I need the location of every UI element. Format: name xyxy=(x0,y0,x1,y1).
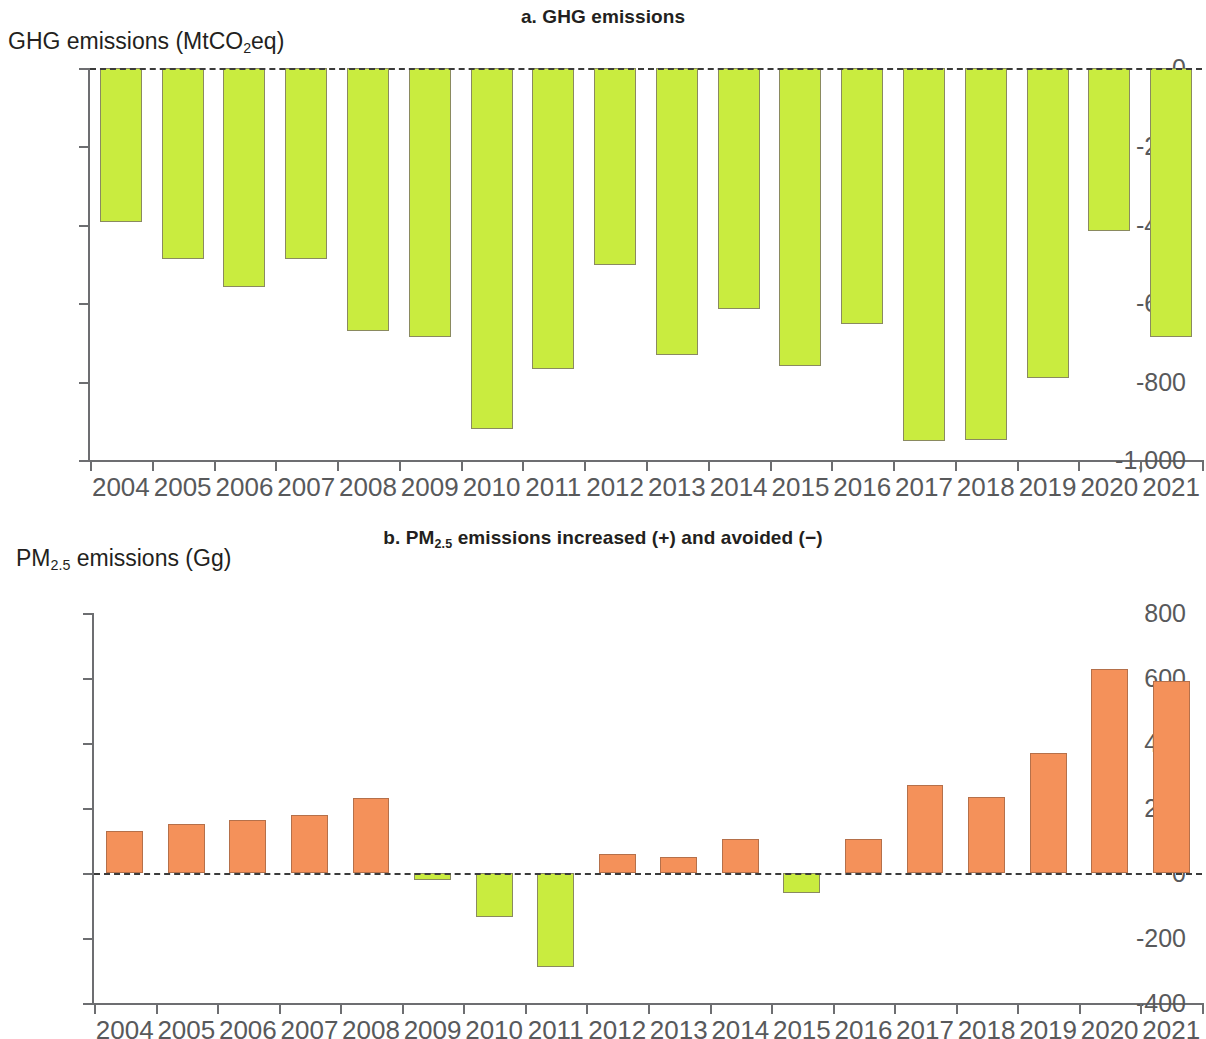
x-axis-tick xyxy=(893,460,895,471)
bar-2020 xyxy=(1091,669,1128,873)
x-axis-tick xyxy=(708,460,710,471)
x-axis-tick-label: 2015 xyxy=(773,1015,831,1039)
y-axis-tick xyxy=(83,613,94,615)
panel-b-y-axis-label-lead: PM xyxy=(16,545,51,571)
x-axis-tick xyxy=(648,1003,650,1014)
panel-b-y-axis-label-tail: emissions (Gg) xyxy=(70,545,231,571)
x-axis-tick-label: 2010 xyxy=(463,472,521,503)
bar-2016 xyxy=(845,839,882,873)
x-axis-tick xyxy=(275,460,277,471)
y-axis-tick xyxy=(79,382,90,384)
x-axis-tick xyxy=(522,460,524,471)
panel-a-title: a. GHG emissions xyxy=(0,6,1206,28)
bar-2006 xyxy=(229,820,266,873)
bar-2011 xyxy=(532,68,574,369)
panel-b-title-subscript: 2.5 xyxy=(435,537,453,551)
x-axis-tick-label: 2004 xyxy=(92,472,150,503)
bar-2007 xyxy=(285,68,327,259)
panel-b-plot-area: 8006004002000-200-4002004200520062007200… xyxy=(92,613,1202,1005)
y-axis-tick xyxy=(79,303,90,305)
bar-2012 xyxy=(594,68,636,265)
y-axis-tick xyxy=(79,460,90,462)
x-axis-tick-label: 2010 xyxy=(465,1015,523,1039)
y-axis-tick xyxy=(83,808,94,810)
bar-2008 xyxy=(353,798,390,873)
bar-2014 xyxy=(722,839,759,873)
x-axis-tick xyxy=(833,1003,835,1014)
bar-2021 xyxy=(1153,681,1190,873)
x-axis-tick-label: 2019 xyxy=(1019,1015,1077,1039)
y-axis-tick xyxy=(83,873,94,875)
x-axis-tick xyxy=(1202,1003,1204,1014)
x-axis-tick-label: 2018 xyxy=(957,472,1015,503)
bar-2012 xyxy=(599,854,636,873)
y-axis-tick xyxy=(79,225,90,227)
bar-2013 xyxy=(656,68,698,355)
x-axis-tick xyxy=(214,460,216,471)
bar-2011 xyxy=(537,873,574,967)
x-axis-tick-label: 2006 xyxy=(216,472,274,503)
x-axis-tick-label: 2017 xyxy=(896,1015,954,1039)
y-axis-tick xyxy=(83,938,94,940)
x-axis-tick-label: 2004 xyxy=(96,1015,154,1039)
bar-2018 xyxy=(968,797,1005,873)
x-axis-tick-label: 2012 xyxy=(588,1015,646,1039)
x-axis-tick xyxy=(217,1003,219,1014)
x-axis-tick xyxy=(584,460,586,471)
x-axis-tick-label: 2008 xyxy=(339,472,397,503)
bar-2009 xyxy=(414,873,451,880)
x-axis-tick xyxy=(770,460,772,471)
x-axis-tick xyxy=(340,1003,342,1014)
bar-2016 xyxy=(841,68,883,324)
panel-a-y-axis-label-subscript: 2 xyxy=(243,40,251,56)
x-axis-tick xyxy=(152,460,154,471)
x-axis-tick-label: 2009 xyxy=(404,1015,462,1039)
bar-2021 xyxy=(1150,68,1192,337)
x-axis-tick-label: 2007 xyxy=(277,472,335,503)
x-axis-tick xyxy=(156,1003,158,1014)
bar-2017 xyxy=(907,785,944,873)
x-axis-tick xyxy=(402,1003,404,1014)
panel-a-y-axis-label-lead: GHG emissions (MtCO xyxy=(8,28,243,54)
panel-b-title-lead: b. PM xyxy=(383,527,434,548)
bar-2005 xyxy=(162,68,204,259)
panel-a-plot-area: 0-200-400-600-800-1,00020042005200620072… xyxy=(88,68,1202,462)
bar-2019 xyxy=(1027,68,1069,378)
x-axis-tick-label: 2009 xyxy=(401,472,459,503)
x-axis-tick xyxy=(831,460,833,471)
x-axis-tick-label: 2021 xyxy=(1142,1015,1200,1039)
x-axis-tick-label: 2008 xyxy=(342,1015,400,1039)
x-axis-tick xyxy=(956,1003,958,1014)
y-axis-tick xyxy=(79,68,90,70)
x-axis-tick xyxy=(1202,460,1204,471)
y-axis-tick xyxy=(83,1003,94,1005)
bar-2006 xyxy=(223,68,265,287)
x-axis-tick xyxy=(1078,460,1080,471)
x-axis-tick-label: 2015 xyxy=(772,472,830,503)
x-axis-tick-label: 2011 xyxy=(525,472,581,503)
x-axis-tick xyxy=(525,1003,527,1014)
x-axis-tick-label: 2012 xyxy=(586,472,644,503)
x-axis-tick-label: 2007 xyxy=(281,1015,339,1039)
x-axis-tick-label: 2005 xyxy=(154,472,212,503)
bar-2009 xyxy=(409,68,451,337)
x-axis-tick xyxy=(461,460,463,471)
bar-2005 xyxy=(168,824,205,873)
x-axis-tick xyxy=(1140,460,1142,471)
x-axis-tick-label: 2013 xyxy=(650,1015,708,1039)
bar-2007 xyxy=(291,815,328,873)
x-axis-tick-label: 2005 xyxy=(157,1015,215,1039)
x-axis-tick-label: 2016 xyxy=(833,472,891,503)
x-axis-tick-label: 2011 xyxy=(528,1015,584,1039)
bar-2004 xyxy=(106,831,143,873)
panel-a-y-axis-label: GHG emissions (MtCO2eq) xyxy=(8,28,284,55)
x-axis-tick xyxy=(279,1003,281,1014)
y-axis-tick xyxy=(79,146,90,148)
x-axis-tick xyxy=(646,460,648,471)
x-axis-tick xyxy=(710,1003,712,1014)
bar-2015 xyxy=(779,68,821,366)
bar-2019 xyxy=(1030,753,1067,873)
bar-2008 xyxy=(347,68,389,331)
x-axis-tick xyxy=(894,1003,896,1014)
bar-2017 xyxy=(903,68,945,441)
